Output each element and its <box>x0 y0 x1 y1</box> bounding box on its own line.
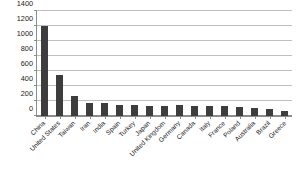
bar <box>251 108 258 116</box>
x-tick-mark <box>135 116 136 119</box>
bar-slot <box>97 11 112 116</box>
bar-slot <box>37 11 52 116</box>
bar <box>236 107 243 116</box>
bar <box>191 106 198 116</box>
x-tick-mark <box>180 116 181 119</box>
bar <box>266 109 273 116</box>
x-tick-mark <box>255 116 256 119</box>
y-tick-label-1400: 1400 <box>17 0 33 7</box>
x-axis-labels: ChinaUnited StatesTaiwanIranIndiaSpainTu… <box>36 120 292 182</box>
bar <box>131 105 138 116</box>
x-tick-mark <box>120 116 121 119</box>
bar <box>86 103 93 116</box>
bar-slot <box>277 11 292 116</box>
bar <box>221 106 228 116</box>
x-tick-mark <box>195 116 196 119</box>
x-label-slot: Greece <box>277 120 292 182</box>
bar-series <box>37 11 292 116</box>
bar <box>101 103 108 116</box>
x-tick-mark <box>45 116 46 119</box>
x-tick-label: Iran <box>79 120 92 133</box>
x-tick-mark <box>90 116 91 119</box>
bar <box>56 75 63 116</box>
x-label-slot: Taiwan <box>66 120 81 182</box>
bar-slot <box>112 11 127 116</box>
bar <box>161 106 168 117</box>
plot-area: 0200400600800100012001400 <box>36 11 292 117</box>
bar <box>41 26 48 116</box>
bar-chart: 0200400600800100012001400 ChinaUnited St… <box>0 0 306 183</box>
bar-slot <box>187 11 202 116</box>
y-tick-label-200: 200 <box>21 90 33 97</box>
bar-slot <box>67 11 82 116</box>
x-tick-mark <box>165 116 166 119</box>
bar-slot <box>262 11 277 116</box>
x-tick-mark <box>105 116 106 119</box>
bar-slot <box>172 11 187 116</box>
bar <box>146 106 153 117</box>
y-tick-label-1000: 1000 <box>17 30 33 37</box>
x-tick-mark <box>150 116 151 119</box>
bar <box>176 105 183 116</box>
x-tick-mark <box>75 116 76 119</box>
bar-slot <box>82 11 97 116</box>
x-tick-mark <box>225 116 226 119</box>
bar-slot <box>157 11 172 116</box>
bar-slot <box>142 11 157 116</box>
bar <box>206 106 213 116</box>
bar <box>116 105 123 116</box>
x-tick-mark <box>270 116 271 119</box>
bar-slot <box>232 11 247 116</box>
y-tick-label-800: 800 <box>21 45 33 52</box>
y-tick-label-600: 600 <box>21 60 33 67</box>
bar-slot <box>127 11 142 116</box>
bar-slot <box>217 11 232 116</box>
y-tick-label-1200: 1200 <box>17 15 33 22</box>
x-tick-mark <box>210 116 211 119</box>
bar <box>71 96 78 116</box>
bar-slot <box>202 11 217 116</box>
y-tick-label-400: 400 <box>21 75 33 82</box>
x-tick-mark <box>285 116 286 119</box>
bar-slot <box>247 11 262 116</box>
y-tick-label-0: 0 <box>29 105 33 112</box>
bar-slot <box>52 11 67 116</box>
x-tick-mark <box>60 116 61 119</box>
x-tick-mark <box>240 116 241 119</box>
